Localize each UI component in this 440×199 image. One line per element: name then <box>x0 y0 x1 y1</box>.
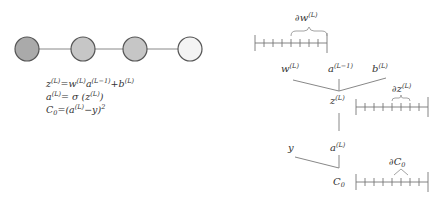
ruler-dc0: ∂C0 <box>356 156 428 192</box>
node-z: z(L) <box>329 94 345 106</box>
node-y: y <box>287 142 294 153</box>
node-a: a(L) <box>330 141 346 153</box>
equation-a: a(L)= σ (z(L)) <box>46 90 104 102</box>
equation-cost: C0=(a(L)−y)2 <box>46 103 105 117</box>
node-b: b(L) <box>372 62 388 74</box>
brace-dc0 <box>394 169 408 175</box>
neuron-4 <box>178 37 202 61</box>
neuron-2 <box>71 37 95 61</box>
neuron-3 <box>123 37 147 61</box>
label-dc0: ∂C0 <box>389 156 405 169</box>
neuron-chain <box>15 37 202 61</box>
brace-dz <box>392 95 410 101</box>
ruler-dw: ∂w(L) <box>255 11 327 53</box>
edge-b-z <box>339 78 386 91</box>
label-dw: ∂w(L) <box>295 11 318 23</box>
edge-w-z <box>293 80 339 91</box>
computation-graph: w(L) a(L−1) b(L) z(L) y a(L) C0 <box>281 62 388 189</box>
ruler-dz: ∂z(L) <box>356 82 428 117</box>
backprop-diagram: z(L)=w(L)a(L−1)+b(L) a(L)= σ (z(L)) C0=(… <box>0 0 440 199</box>
equations: z(L)=w(L)a(L−1)+b(L) a(L)= σ (z(L)) C0=(… <box>45 77 134 117</box>
edge-y-c <box>295 157 339 168</box>
equation-z: z(L)=w(L)a(L−1)+b(L) <box>45 77 134 89</box>
node-w: w(L) <box>281 62 299 74</box>
brace-dw <box>291 27 327 36</box>
node-a-prev: a(L−1) <box>328 62 353 74</box>
node-c0: C0 <box>333 176 345 189</box>
neuron-1 <box>15 37 39 61</box>
label-dz: ∂z(L) <box>392 82 412 94</box>
